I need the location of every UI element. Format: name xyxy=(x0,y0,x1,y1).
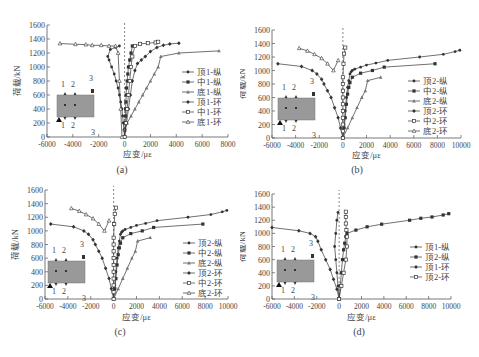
svg-text:3: 3 xyxy=(89,74,93,83)
svg-text:0: 0 xyxy=(341,141,345,150)
chart-panel-d: 02004006008001000120014001600-6000-4000-… xyxy=(240,180,479,357)
svg-text:1: 1 xyxy=(52,287,56,296)
svg-text:1: 1 xyxy=(281,245,285,254)
svg-text:2: 2 xyxy=(292,83,296,92)
svg-text:400: 400 xyxy=(33,105,45,114)
chart-panel-c: 02004006008001000120014001600-6000-4000-… xyxy=(0,180,240,357)
svg-text:-4000: -4000 xyxy=(287,141,305,150)
svg-text:1600: 1600 xyxy=(254,190,270,199)
svg-text:0: 0 xyxy=(123,140,127,149)
svg-text:3: 3 xyxy=(311,293,315,302)
svg-text:1200: 1200 xyxy=(27,213,43,222)
svg-text:2: 2 xyxy=(62,287,66,296)
svg-text:600: 600 xyxy=(33,91,45,100)
svg-text:中1-纵: 中1-纵 xyxy=(197,77,222,87)
svg-text:-4000: -4000 xyxy=(64,140,82,149)
svg-text:6000: 6000 xyxy=(406,141,421,150)
svg-text:顶2-环: 顶2-环 xyxy=(198,268,223,278)
svg-text:1600: 1600 xyxy=(29,21,45,30)
svg-text:2000: 2000 xyxy=(143,140,158,149)
svg-text:应变/με: 应变/με xyxy=(347,312,376,322)
svg-text:600: 600 xyxy=(31,254,43,263)
svg-text:200: 200 xyxy=(33,119,45,128)
svg-text:2000: 2000 xyxy=(359,141,374,150)
svg-text:-2000: -2000 xyxy=(311,141,329,150)
chart-panel-a: 02004006008001000120014001600-6000-4000-… xyxy=(0,0,240,180)
svg-text:中2-纵: 中2-纵 xyxy=(198,248,223,258)
svg-text:1000: 1000 xyxy=(254,67,270,76)
svg-text:200: 200 xyxy=(258,121,270,130)
svg-text:2: 2 xyxy=(71,121,75,130)
svg-text:中1-环: 中1-环 xyxy=(197,107,222,117)
svg-text:顶2-纵: 顶2-纵 xyxy=(198,238,223,248)
svg-text:荷载/kN: 荷载/kN xyxy=(10,229,20,260)
svg-text:2000: 2000 xyxy=(129,302,144,311)
svg-text:-2000: -2000 xyxy=(90,140,108,149)
svg-text:-6000: -6000 xyxy=(36,302,54,311)
svg-text:顶1-纵: 顶1-纵 xyxy=(425,242,450,252)
svg-text:200: 200 xyxy=(258,282,270,291)
svg-text:-4000: -4000 xyxy=(286,302,304,311)
svg-text:荷载/kN: 荷载/kN xyxy=(240,69,247,100)
svg-text:800: 800 xyxy=(258,80,270,89)
svg-text:顶1-环: 顶1-环 xyxy=(197,97,222,107)
svg-text:3: 3 xyxy=(309,239,313,248)
svg-text:1400: 1400 xyxy=(254,203,270,212)
caption-b: (b) xyxy=(337,164,377,175)
svg-text:-2000: -2000 xyxy=(308,302,326,311)
svg-text:4000: 4000 xyxy=(152,302,167,311)
svg-text:400: 400 xyxy=(258,269,270,278)
svg-text:4000: 4000 xyxy=(169,140,184,149)
svg-text:底2-环: 底2-环 xyxy=(198,288,223,298)
caption-a: (a) xyxy=(102,164,142,175)
svg-text:6000: 6000 xyxy=(399,302,414,311)
svg-text:2: 2 xyxy=(291,286,295,295)
svg-text:1600: 1600 xyxy=(254,26,270,35)
svg-text:荷载/kN: 荷载/kN xyxy=(240,231,247,262)
svg-text:顶2-纵: 顶2-纵 xyxy=(425,252,450,262)
svg-text:-2000: -2000 xyxy=(82,302,100,311)
svg-text:应变/με: 应变/με xyxy=(122,312,151,322)
svg-text:10000: 10000 xyxy=(219,302,238,311)
svg-text:1: 1 xyxy=(282,124,286,133)
svg-text:6000: 6000 xyxy=(195,140,210,149)
svg-text:600: 600 xyxy=(258,94,270,103)
svg-text:1: 1 xyxy=(281,286,285,295)
svg-text:应变/με: 应变/με xyxy=(352,150,381,160)
svg-text:-6000: -6000 xyxy=(38,140,56,149)
svg-text:顶2-纵: 顶2-纵 xyxy=(423,76,448,86)
svg-text:1: 1 xyxy=(282,83,286,92)
svg-text:2: 2 xyxy=(62,246,66,255)
svg-text:顶2-环: 顶2-环 xyxy=(423,106,448,116)
svg-text:2000: 2000 xyxy=(354,302,369,311)
chart-panel-b: 02004006008001000120014001600-6000-4000-… xyxy=(240,0,479,180)
svg-text:2: 2 xyxy=(71,80,75,89)
svg-text:顶2-环: 顶2-环 xyxy=(425,272,450,282)
svg-text:2: 2 xyxy=(292,124,296,133)
svg-text:-4000: -4000 xyxy=(59,302,77,311)
svg-text:8000: 8000 xyxy=(430,141,445,150)
svg-text:0: 0 xyxy=(112,302,116,311)
svg-text:底2-环: 底2-环 xyxy=(423,126,448,136)
svg-text:1200: 1200 xyxy=(29,49,45,58)
svg-text:1: 1 xyxy=(61,80,65,89)
caption-c: (c) xyxy=(100,326,140,337)
svg-text:应变/με: 应变/με xyxy=(123,149,152,159)
svg-text:400: 400 xyxy=(31,268,43,277)
svg-text:1: 1 xyxy=(61,121,65,130)
svg-text:1000: 1000 xyxy=(27,227,43,236)
svg-text:3: 3 xyxy=(80,240,84,249)
svg-text:10000: 10000 xyxy=(442,302,461,311)
svg-text:3: 3 xyxy=(312,131,316,140)
svg-text:8000: 8000 xyxy=(221,140,236,149)
svg-text:荷载/kN: 荷载/kN xyxy=(12,66,22,97)
svg-text:中2-环: 中2-环 xyxy=(198,278,223,288)
svg-text:3: 3 xyxy=(91,128,95,137)
svg-text:1400: 1400 xyxy=(27,200,43,209)
svg-text:800: 800 xyxy=(31,241,43,250)
svg-text:4000: 4000 xyxy=(383,141,398,150)
svg-text:1000: 1000 xyxy=(254,229,270,238)
svg-text:1200: 1200 xyxy=(254,53,270,62)
caption-d: (d) xyxy=(339,326,379,337)
svg-text:1600: 1600 xyxy=(27,186,43,195)
